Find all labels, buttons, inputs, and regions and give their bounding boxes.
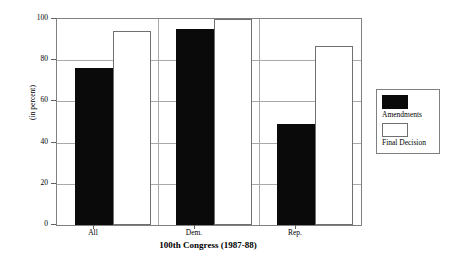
bar-final-decision-rep [315,46,353,225]
group-divider-2 [259,19,260,225]
legend-label-amendments: Amendments [382,110,434,120]
bar-amendments-dem [176,29,214,225]
xtick-label-rep: Rep. [265,228,325,237]
bar-amendments-rep [277,124,315,225]
bar-final-decision-all [113,31,151,225]
ytick-label-0: 0 [22,220,48,228]
ytick-label-20: 20 [22,179,48,187]
x-axis-label: 100th Congress (1987-88) [56,240,360,250]
legend-swatch-final-decision [382,123,408,137]
bar-chart-figure: 0 20 40 60 80 100 (in percent) All Dem. [0,0,460,262]
xtick-label-dem: Dem. [164,228,224,237]
xtick-label-all: All [63,228,123,237]
legend-label-final-decision: Final Decision [382,138,434,148]
y-axis-label: (in percent) [28,63,37,143]
ytick-label-100: 100 [22,14,48,22]
bar-final-decision-dem [214,19,252,225]
plot-area [56,18,362,226]
chart-legend: Amendments Final Decision [376,89,440,154]
group-divider-1 [158,19,159,225]
legend-swatch-amendments [382,95,408,109]
bar-amendments-all [75,68,113,225]
